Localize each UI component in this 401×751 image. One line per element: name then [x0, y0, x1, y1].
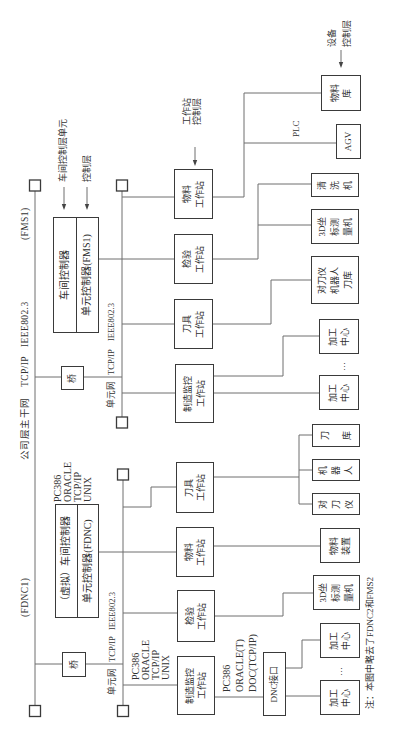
- device-label: 人: [343, 466, 356, 475]
- cell-layer-arrowhead-icon: [85, 204, 89, 210]
- spec-line: PC386: [220, 634, 233, 692]
- virtual-shop-controller-section: （虚拟）车间控制器: [56, 505, 78, 617]
- device-label: 加工: [327, 328, 340, 346]
- fdnc-ellipsis: …: [333, 667, 345, 676]
- ws-label: 制造监控: [184, 668, 197, 704]
- fms1-ws-tool: 刀具 工作站: [174, 299, 213, 349]
- fdnc-tool-library: 刀 库: [312, 424, 360, 447]
- spec-line: UNIX: [161, 640, 171, 680]
- fdnc-ws-tool: 刀具 工作站: [176, 462, 214, 513]
- device-label: 库: [341, 431, 354, 440]
- device-label: 中心: [340, 632, 353, 650]
- device-label: 物料: [329, 84, 342, 102]
- fdnc-bridge: 桥: [62, 652, 86, 677]
- device-label: 洗: [329, 181, 342, 190]
- device-layer-line: 控制层: [340, 20, 355, 47]
- device-label: 加工: [328, 632, 341, 650]
- ws-label: 物料: [183, 543, 196, 561]
- fdnc-tool-ws-link: [123, 487, 176, 507]
- device-label: 标测: [330, 584, 343, 602]
- spec-line: ORACLE(T): [233, 634, 246, 692]
- fdnc-unit-net-protocol: TCP/IP: [106, 636, 118, 662]
- dnc-spec: PC386 ORACLE(T) DOC(TCP/IP): [220, 634, 259, 692]
- shop-controller-section: 车间控制器: [54, 218, 77, 332]
- spec-line: DOC(TCP/IP): [246, 634, 259, 692]
- device-label: 对刀仪: [316, 267, 329, 294]
- fdnc-cmm: 3D坐 标测 量机: [313, 575, 360, 610]
- ws-label: 工作站: [196, 603, 209, 630]
- ws-label: 工作站: [194, 181, 207, 208]
- fms1-unit-net-protocol: TCP/IP: [105, 349, 117, 375]
- backbone-protocol: TCP/IP: [19, 356, 31, 387]
- cell-controller-section: 单元控制器(FDNC): [78, 505, 99, 617]
- fms1-ellipsis: …: [336, 362, 348, 371]
- device-label: 刀: [330, 500, 343, 509]
- fms1-bridge: 桥: [61, 366, 84, 390]
- fdnc-ws-monitor: 制造监控 工作站: [177, 656, 215, 715]
- device-layer-line: 设备: [325, 20, 340, 47]
- device-label: 装置: [340, 537, 353, 555]
- fms1-unit-net-terminator-right: [117, 180, 128, 191]
- fms1-agv: AGV: [336, 124, 361, 159]
- backbone-terminator-left: [30, 706, 41, 717]
- shop-controller-label: （虚拟）车间控制器: [60, 516, 73, 606]
- cell-controller-label: 单元控制器(FMS1): [81, 234, 94, 316]
- fms1-washer-link: [213, 184, 311, 259]
- fms-network-diagram: (FDNC1) 公司层主干网 TCP/IP IEEE802.3 (FMS1) 车…: [0, 0, 401, 751]
- fdnc-controller: （虚拟）车间控制器 单元控制器(FDNC): [55, 504, 99, 618]
- cell-controller-section: 单元控制器(FMS1): [77, 218, 99, 332]
- device-label: 3D坐: [316, 217, 329, 237]
- dnc-interface-label: DNC接口: [268, 666, 281, 703]
- ws-label: 检验: [181, 250, 194, 268]
- ws-label: 工作站: [194, 246, 207, 273]
- device-label: 对: [317, 500, 330, 509]
- fms1-machining-center-1: 加工 中心: [319, 319, 359, 354]
- fms1-ws-inspection: 检验 工作站: [174, 234, 213, 284]
- workstation-layer-label: 工作站 控制层: [182, 98, 202, 125]
- device-label: 清: [316, 181, 329, 190]
- fdnc-cmm-link: [215, 593, 313, 616]
- fdnc-unit-net-terminator-right: [118, 469, 129, 480]
- bridge-label: 桥: [66, 374, 79, 383]
- fdnc-mc1-link: [286, 640, 320, 668]
- fms1-unit-net-name: 单元网: [105, 381, 117, 408]
- ws-label: 刀具: [183, 479, 196, 497]
- fms1-ws-material: 物料 工作站: [174, 169, 213, 219]
- device-label: 机器人: [329, 267, 342, 294]
- device-label: 仪: [343, 500, 356, 509]
- fms1-machining-center-2: 加工 中心: [319, 375, 359, 410]
- shop-layer-arrowhead-icon: [62, 204, 66, 210]
- fms1-material-store-link: [213, 93, 321, 197]
- workstation-layer-line: 工作站: [182, 98, 192, 125]
- device-label: 中心: [339, 328, 352, 346]
- ws-label: 工作站: [195, 380, 208, 407]
- device-label: 加工: [328, 689, 341, 707]
- fms1-tool-cell: 对刀仪 机器人 刀库: [311, 256, 359, 304]
- footnote: 注：本图中略去了FDNC2和FMS2: [364, 577, 376, 709]
- dnc-interface: DNC接口: [263, 652, 286, 716]
- device-label: 量机: [342, 218, 355, 236]
- fdnc-robot: 机 器 人: [312, 459, 360, 481]
- backbone-tag-fdnc1: (FDNC1): [19, 578, 31, 617]
- device-label: 机: [317, 466, 330, 475]
- workstation-layer-arrowhead-icon: [193, 160, 197, 166]
- backbone-tag-fms1: (FMS1): [19, 208, 31, 241]
- device-label: 物料: [328, 537, 341, 555]
- cell-layer-label: 控制层: [81, 155, 93, 182]
- fdnc-unit-net-terminator-left: [118, 706, 129, 717]
- fms1-washer: 清 洗 机: [311, 173, 359, 197]
- device-label: 器: [330, 466, 343, 475]
- ws-label: 物料: [181, 185, 194, 203]
- ws-label: 工作站: [195, 539, 208, 566]
- fms1-material-store: 物料 库: [321, 75, 361, 111]
- device-label: 机: [342, 181, 355, 190]
- plc-label: PLC: [290, 120, 302, 137]
- ws-label: 工作站: [194, 311, 207, 338]
- ws-label: 制造监控: [182, 376, 195, 412]
- device-label: 中心: [340, 689, 353, 707]
- fms1-unit-net-terminator-left: [117, 417, 128, 428]
- fdnc-material-device: 物料 装置: [320, 528, 360, 563]
- device-label: 量机: [343, 584, 356, 602]
- device-label: 3D坐: [317, 583, 330, 603]
- fms1-mc1-link: [214, 336, 319, 376]
